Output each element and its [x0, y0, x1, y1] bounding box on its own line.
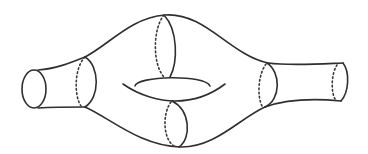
right-neck-bottom-edge	[265, 100, 341, 107]
left-neck-bottom-edge	[38, 107, 85, 108]
top-ring-back	[155, 15, 164, 77]
upper-body-edge	[85, 15, 268, 63]
hole-upper-edge	[135, 78, 210, 86]
left-neck-ring-back	[76, 57, 85, 106]
right-neck-top-edge	[268, 63, 343, 65]
left-end-cap	[22, 70, 46, 108]
right-neck-ring-front	[265, 63, 277, 107]
right-neck-ring-back	[259, 64, 266, 106]
lower-body-edge	[85, 107, 265, 147]
right-end-cap-back	[332, 65, 337, 99]
right-end-cap-front	[341, 63, 348, 101]
surface-diagram-svg	[0, 0, 368, 154]
surface-diagram	[0, 0, 368, 154]
top-ring-front	[164, 15, 175, 77]
bottom-ring-back	[165, 102, 174, 146]
bottom-ring-front	[172, 101, 187, 147]
left-neck-ring-front	[85, 57, 96, 107]
